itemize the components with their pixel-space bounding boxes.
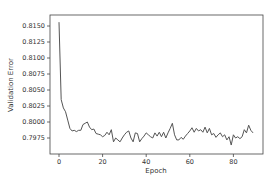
y-tick-label: 0.8050 bbox=[22, 86, 45, 94]
y-tick-label: 0.7975 bbox=[22, 134, 45, 142]
x-tick-label: 80 bbox=[229, 158, 237, 166]
y-tick-label: 0.8000 bbox=[22, 118, 45, 126]
x-tick-label: 60 bbox=[186, 158, 194, 166]
x-tick-label: 0 bbox=[57, 158, 61, 166]
x-tick-label: 40 bbox=[142, 158, 150, 166]
y-axis-label: Validation Error bbox=[7, 58, 15, 112]
x-tick-label: 20 bbox=[98, 158, 106, 166]
x-axis-label: Epoch bbox=[145, 167, 166, 175]
y-tick-label: 0.8100 bbox=[22, 54, 45, 62]
validation-error-chart: 0.79750.80000.80250.80500.80750.81000.81… bbox=[0, 0, 272, 183]
y-tick-label: 0.8150 bbox=[22, 22, 45, 30]
y-tick-label: 0.8025 bbox=[22, 102, 45, 110]
y-tick-label: 0.8125 bbox=[22, 38, 45, 46]
y-tick-label: 0.8075 bbox=[22, 70, 45, 78]
